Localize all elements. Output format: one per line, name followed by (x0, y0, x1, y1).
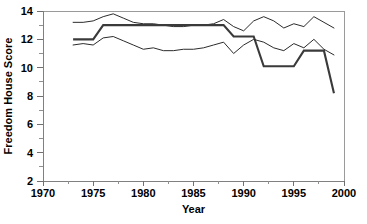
y-tick-label: 12 (21, 33, 33, 45)
y-tick-label: 8 (27, 90, 33, 102)
middle-thick-line (73, 25, 334, 93)
x-tick-label: 2000 (332, 187, 356, 199)
x-tick-label: 1985 (181, 187, 205, 199)
x-axis-major-ticks (43, 181, 344, 186)
lower-thin-line (73, 37, 334, 55)
data-series-group (73, 14, 334, 93)
y-axis-title: Freedom House Score (2, 38, 14, 155)
y-tick-label: 14 (21, 5, 34, 17)
y-axis-major-ticks (37, 11, 43, 181)
x-tick-labels: 1970 1975 1980 1985 1990 1995 2000 (31, 187, 356, 199)
x-tick-label: 1975 (81, 187, 105, 199)
x-tick-label: 1990 (231, 187, 255, 199)
y-tick-label: 10 (21, 62, 33, 74)
upper-thin-line (73, 14, 334, 31)
x-tick-label: 1970 (31, 187, 55, 199)
y-tick-label: 2 (27, 175, 33, 187)
x-tick-label: 1995 (282, 187, 306, 199)
y-tick-labels: 14 12 10 8 6 4 2 (21, 5, 34, 187)
freedom-house-score-chart: 14 12 10 8 6 4 2 1970 1975 1980 1985 199… (0, 0, 367, 224)
y-tick-label: 4 (27, 147, 34, 159)
chart-svg: 14 12 10 8 6 4 2 1970 1975 1980 1985 199… (0, 0, 367, 224)
plot-frame (43, 11, 344, 181)
x-tick-label: 1980 (131, 187, 155, 199)
y-tick-label: 6 (27, 118, 33, 130)
x-axis-title: Year (182, 203, 206, 215)
